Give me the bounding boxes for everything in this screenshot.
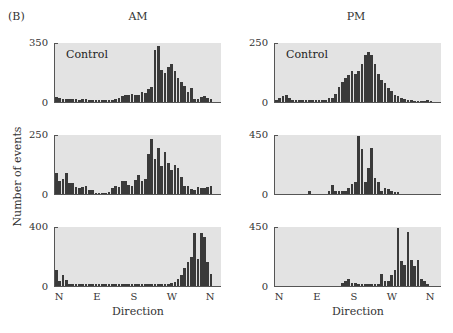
histogram-bar <box>141 181 144 194</box>
histogram-bar <box>180 275 183 286</box>
histogram-bar <box>423 281 426 286</box>
histogram-bar <box>338 191 341 194</box>
histogram-bar <box>403 99 406 102</box>
ytick-max: 450 <box>242 129 268 140</box>
x-axis <box>54 194 221 195</box>
histogram-bar <box>390 275 393 286</box>
histogram-bar <box>187 262 190 286</box>
bars <box>275 227 441 286</box>
xtick-n: N <box>51 291 67 302</box>
histogram-bar <box>157 284 160 286</box>
histogram-bar <box>154 284 157 286</box>
histogram-bar <box>167 67 170 102</box>
control-label: Control <box>66 48 108 61</box>
histogram-bar <box>131 186 134 194</box>
histogram-bar <box>370 284 373 286</box>
histogram-bar <box>170 170 173 194</box>
histogram-bar <box>78 100 81 102</box>
histogram-bar <box>137 175 140 194</box>
histogram-bar <box>390 91 393 102</box>
histogram-bar <box>203 237 206 286</box>
histogram-bar <box>291 100 294 102</box>
histogram-bar <box>357 136 360 194</box>
histogram-bar <box>197 187 200 194</box>
histogram-bar <box>285 95 288 102</box>
histogram-bar <box>200 233 203 286</box>
histogram-bar <box>88 100 91 102</box>
control-label: Control <box>286 48 328 61</box>
histogram-bar <box>190 88 193 102</box>
x-axis-label-am: Direction <box>98 305 178 318</box>
histogram-bar <box>134 95 137 102</box>
xtick-n: N <box>271 291 287 302</box>
ytick-max: 450 <box>242 221 268 232</box>
xtick-w: W <box>164 291 180 302</box>
histogram-bar <box>183 268 186 286</box>
histogram-bar <box>114 186 117 194</box>
histogram-bar <box>403 265 406 286</box>
histogram-bar <box>361 284 364 286</box>
histogram-bar <box>144 284 147 286</box>
histogram-bar <box>397 192 400 194</box>
histogram-bar <box>197 259 200 286</box>
histogram-bar <box>177 78 180 102</box>
histogram-bar <box>127 95 130 102</box>
histogram-bar <box>75 284 78 286</box>
histogram-bar <box>275 100 278 102</box>
histogram-bar <box>118 187 121 194</box>
histogram-bar <box>78 284 81 286</box>
histogram-bar <box>121 181 124 194</box>
histogram-bar <box>187 92 190 102</box>
histogram-bar <box>127 185 130 194</box>
histogram-bar <box>387 281 390 286</box>
histogram-bar <box>426 100 429 102</box>
histogram-bar <box>170 64 173 102</box>
histogram-bar <box>423 101 426 102</box>
ytick-zero: 0 <box>22 281 48 292</box>
histogram-bar <box>301 100 304 102</box>
histogram-bar <box>121 96 124 102</box>
histogram-bar <box>141 284 144 286</box>
histogram-pm-row2 <box>274 135 441 195</box>
histogram-bar <box>380 274 383 286</box>
histogram-bar <box>308 191 311 194</box>
histogram-bar <box>114 284 117 286</box>
histogram-bar <box>91 100 94 102</box>
histogram-bar <box>108 100 111 102</box>
histogram-bar <box>85 99 88 102</box>
histogram-bar <box>134 180 137 194</box>
histogram-bar <box>124 181 127 194</box>
histogram-bar <box>65 99 68 102</box>
histogram-bar <box>104 100 107 102</box>
histogram-bar <box>118 98 121 102</box>
histogram-pm-row3 <box>274 227 441 287</box>
histogram-bar <box>164 152 167 194</box>
histogram-bar <box>114 99 117 102</box>
histogram-bar <box>108 192 111 194</box>
histogram-am-row3 <box>54 227 221 287</box>
histogram-bar <box>150 284 153 286</box>
histogram-bar <box>183 186 186 194</box>
histogram-bar <box>71 284 74 286</box>
histogram-bar <box>95 284 98 286</box>
histogram-bar <box>58 281 61 286</box>
histogram-bar <box>344 281 347 286</box>
histogram-bar <box>101 193 104 194</box>
histogram-bar <box>351 71 354 102</box>
histogram-bar <box>426 284 429 286</box>
histogram-bar <box>71 183 74 194</box>
histogram-bar <box>193 233 196 286</box>
histogram-bar <box>384 188 387 194</box>
histogram-bar <box>95 193 98 194</box>
histogram-bar <box>157 148 160 194</box>
histogram-bar <box>361 64 364 102</box>
histogram-bar <box>91 284 94 286</box>
histogram-bar <box>282 96 285 102</box>
histogram-bar <box>278 98 281 102</box>
histogram-bar <box>58 181 61 194</box>
histogram-bar <box>407 100 410 102</box>
histogram-bar <box>397 228 400 286</box>
histogram-bar <box>121 284 124 286</box>
histogram-bar <box>65 280 68 286</box>
histogram-bar <box>394 192 397 194</box>
